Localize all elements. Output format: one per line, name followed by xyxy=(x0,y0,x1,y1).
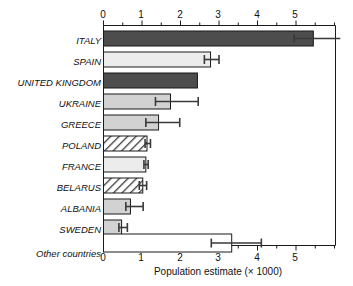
horizontal-bar-chart: ITALY SPAIN UNITED KINGDOM UKRAINE GREEC… xyxy=(0,0,353,286)
bar-italy xyxy=(104,31,314,46)
plot-area xyxy=(0,0,353,286)
bar-united-kingdom xyxy=(104,73,198,88)
bar-spain xyxy=(104,52,211,67)
bar-poland xyxy=(104,136,148,151)
bar-belarus xyxy=(104,178,143,193)
bar-france xyxy=(104,157,146,172)
